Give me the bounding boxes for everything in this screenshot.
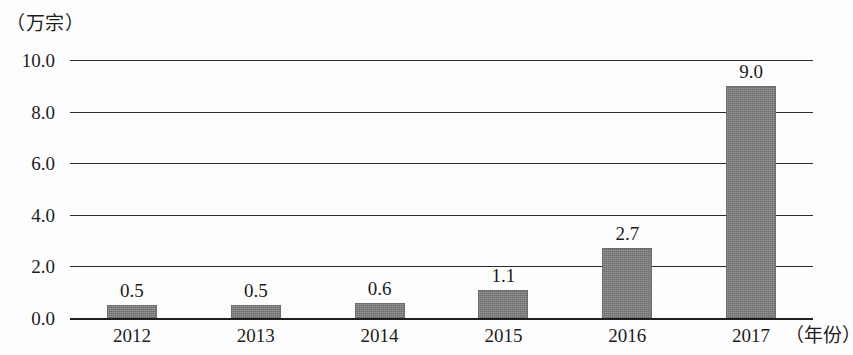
bar [726,86,776,318]
bar-value-label: 0.5 [87,281,177,300]
bar-chart: （万宗） 0.02.04.06.08.010.0 0.50.50.61.12.7… [0,0,853,355]
x-axis-tick-label: 2014 [335,326,425,345]
x-axis-tick-label: 2015 [458,326,548,345]
bar [231,305,281,318]
bar [478,290,528,318]
y-axis-unit-label: （万宗） [6,8,84,35]
y-axis-tick-label: 2.0 [0,257,55,276]
gridline [70,163,813,164]
bar-value-label: 0.5 [211,281,301,300]
bar-value-label: 0.6 [335,279,425,298]
x-axis-tick-label: 2013 [211,326,301,345]
y-axis-tick-label: 8.0 [0,103,55,122]
bar [355,303,405,318]
y-axis-tick-label: 0.0 [0,309,55,328]
gridline [70,112,813,113]
bar-value-label: 9.0 [706,62,796,81]
y-axis-tick-label: 4.0 [0,206,55,225]
gridline [70,266,813,267]
x-axis-unit-label: （年份） [785,326,853,345]
x-axis-tick-label: 2017 [706,326,796,345]
bar [107,305,157,318]
y-axis-tick-label: 6.0 [0,154,55,173]
gridline [70,60,813,61]
x-axis-tick-label: 2016 [582,326,672,345]
gridline [70,318,813,320]
bar-value-label: 2.7 [582,224,672,243]
y-axis-tick-label: 10.0 [0,51,55,70]
plot-area [70,60,813,318]
bar [602,248,652,318]
bar-value-label: 1.1 [458,266,548,285]
gridline [70,215,813,216]
x-axis-tick-label: 2012 [87,326,177,345]
